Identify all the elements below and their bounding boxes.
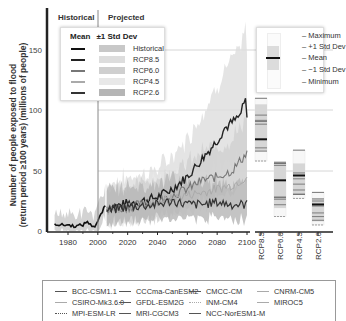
x-tick-label: 1980 — [59, 238, 77, 247]
model-legend-item: CCCma-CanESM2 — [119, 287, 198, 296]
boxplot-label: RCP2.6 — [314, 231, 323, 260]
model-line-swatch — [257, 291, 269, 292]
x-tick-label: 2000 — [89, 238, 107, 247]
y-tick-label: 100 — [29, 106, 43, 115]
model-legend-item: INM-CM4 — [189, 298, 238, 307]
scenario-legend: Mean ±1 Std Dev HistoricalRCP8.5RCP6.0RC… — [60, 27, 165, 101]
model-line-swatch — [119, 291, 131, 292]
boxplot-legend: – Maximum – +1 Std Dev – Mean – −1 Std D… — [256, 27, 324, 93]
model-legend-item: BCC-CSM1.1 — [55, 287, 117, 296]
x-tick-labels: 1980200020202040206020802100 — [59, 232, 256, 247]
model-label: BCC-CSM1.1 — [72, 287, 117, 296]
model-line-swatch — [189, 291, 201, 292]
model-label: INM-CM4 — [206, 298, 238, 307]
legend-band-swatch — [99, 45, 125, 52]
legend-band-swatch — [99, 89, 125, 96]
legend-line-swatch — [71, 81, 85, 83]
model-label: MRI-CGCM3 — [136, 309, 179, 318]
y-axis-title-line1: Number of people exposed to flood — [8, 64, 18, 207]
model-legend-item: GFDL-ESM2G — [119, 298, 184, 307]
boxplot-labels: RCP8.5RCP6.0RCP4.5RCP2.6 — [257, 231, 323, 260]
model-line-swatch — [55, 291, 67, 292]
model-label: MIROC5 — [274, 298, 303, 307]
legend-minus-sd: – −1 Std Dev — [302, 65, 346, 74]
legend-entry: RCP4.5 — [61, 76, 164, 87]
model-label: CSIRO-Mk3.6.0 — [72, 298, 124, 307]
legend-mean: – Mean — [302, 53, 327, 62]
legend-minimum: – Minimum — [302, 77, 339, 86]
model-line-swatch — [189, 302, 201, 303]
model-legend-item: MRI-CGCM3 — [119, 309, 179, 318]
legend-mean-header: Mean — [70, 32, 90, 41]
boxplot-label: RCP8.5 — [257, 231, 266, 260]
boxplot-label: RCP4.5 — [295, 231, 304, 260]
legend-line-swatch — [71, 92, 85, 94]
legend-line-swatch — [71, 48, 85, 50]
model-label: CNRM-CM5 — [274, 287, 314, 296]
model-line-swatch — [119, 313, 131, 314]
legend-line-swatch — [71, 59, 85, 61]
legend-label: RCP8.5 — [133, 55, 159, 64]
model-line-swatch — [55, 313, 67, 314]
model-legend-item: NCC-NorESM1-M — [189, 309, 265, 318]
model-legend: BCC-CSM1.1CCCma-CanESM2CMCC-CMCNRM-CM5CS… — [42, 280, 336, 321]
legend-label: RCP2.6 — [133, 88, 159, 97]
legend-label: RCP4.5 — [133, 77, 159, 86]
model-legend-item: MIROC5 — [257, 298, 303, 307]
y-axis-title-line2: (return period ≥100 years) (millions of … — [18, 43, 28, 228]
legend-plus-sd: – +1 Std Dev — [302, 42, 346, 51]
x-tick-label: 2020 — [119, 238, 137, 247]
boxplots — [255, 98, 324, 225]
model-legend-item: CNRM-CM5 — [257, 287, 314, 296]
model-legend-item: CMCC-CM — [189, 287, 242, 296]
legend-band-swatch — [99, 67, 125, 74]
model-line-swatch — [257, 302, 269, 303]
x-tick-label: 2060 — [178, 238, 196, 247]
model-label: CMCC-CM — [206, 287, 242, 296]
legend-std-header: ±1 Std Dev — [96, 32, 137, 41]
legend-entry: RCP6.0 — [61, 65, 164, 76]
model-legend-item: MPI-ESM-LR — [55, 309, 116, 318]
y-tick-label: 150 — [29, 46, 43, 55]
model-line-swatch — [119, 302, 131, 303]
legend-entry: Historical — [61, 43, 164, 54]
legend-line-swatch — [71, 70, 85, 72]
y-tick-label: 50 — [33, 167, 42, 176]
boxplot-label: RCP6.0 — [276, 231, 285, 260]
model-label: GFDL-ESM2G — [136, 298, 184, 307]
model-line-swatch — [55, 302, 67, 303]
model-line-swatch — [189, 313, 201, 314]
legend-label: RCP6.0 — [133, 66, 159, 75]
model-label: MPI-ESM-LR — [72, 309, 116, 318]
legend-entry: RCP8.5 — [61, 54, 164, 65]
legend-entry: RCP2.6 — [61, 87, 164, 98]
y-tick-labels: 050100150 — [29, 46, 43, 236]
x-tick-label: 2040 — [149, 238, 167, 247]
x-tick-label: 2100 — [238, 238, 256, 247]
legend-label: Historical — [133, 44, 164, 53]
x-tick-label: 2080 — [208, 238, 226, 247]
legend-band-swatch — [99, 56, 125, 63]
historical-period-label: Historical — [58, 13, 94, 22]
projected-period-label: Projected — [108, 13, 145, 22]
model-legend-item: CSIRO-Mk3.6.0 — [55, 298, 124, 307]
legend-band-swatch — [99, 78, 125, 85]
legend-maximum: – Maximum — [302, 31, 341, 40]
y-tick-label: 0 — [38, 227, 43, 236]
model-label: NCC-NorESM1-M — [206, 309, 265, 318]
